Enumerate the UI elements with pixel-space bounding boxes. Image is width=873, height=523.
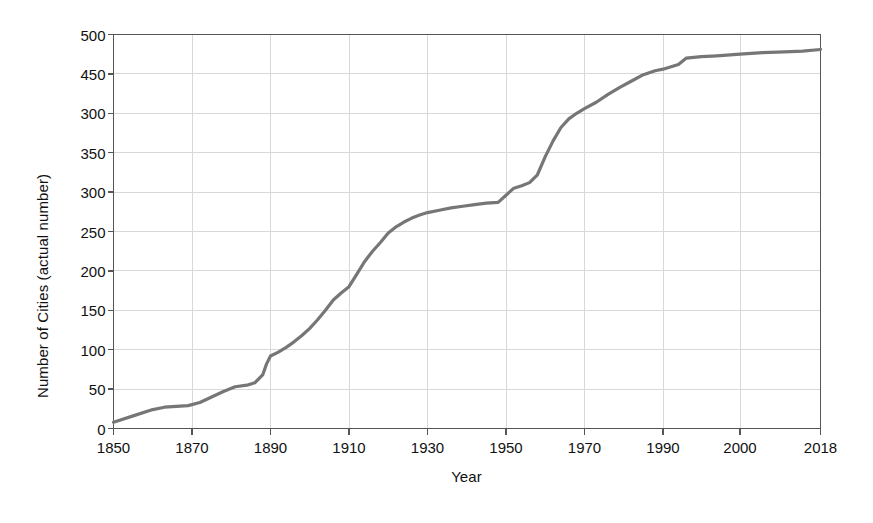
x-tick-label: 1990: [646, 439, 679, 456]
x-tick-label: 1890: [254, 439, 287, 456]
y-tick-label: 500: [62, 26, 106, 43]
y-axis-title: Number of Cities (actual number): [34, 174, 51, 398]
gridlines: [114, 35, 821, 429]
x-tick-label: 1850: [97, 439, 130, 456]
y-axis-tick-marks: [108, 35, 114, 429]
y-tick-label: 100: [62, 341, 106, 358]
x-axis-tick-marks: [114, 429, 821, 435]
y-tick-label: 350: [62, 144, 106, 161]
y-tick-label: 0: [62, 420, 106, 437]
line-chart: 500450300350300250200150100500 185018701…: [0, 0, 873, 523]
x-tick-label: 1970: [568, 439, 601, 456]
y-tick-label: 50: [62, 381, 106, 398]
y-tick-label: 150: [62, 302, 106, 319]
y-tick-label: 200: [62, 262, 106, 279]
data-series-line: [114, 49, 821, 422]
x-tick-label: 1870: [175, 439, 208, 456]
x-tick-label: 1930: [411, 439, 444, 456]
x-tick-label: 2000: [723, 439, 756, 456]
x-tick-label: 1950: [489, 439, 522, 456]
y-tick-label: 300: [62, 105, 106, 122]
y-tick-label: 250: [62, 223, 106, 240]
x-tick-label: 2018: [804, 439, 837, 456]
y-tick-label: 300: [62, 184, 106, 201]
x-tick-label: 1910: [332, 439, 365, 456]
x-axis-title: Year: [0, 468, 873, 485]
y-tick-label: 450: [62, 65, 106, 82]
